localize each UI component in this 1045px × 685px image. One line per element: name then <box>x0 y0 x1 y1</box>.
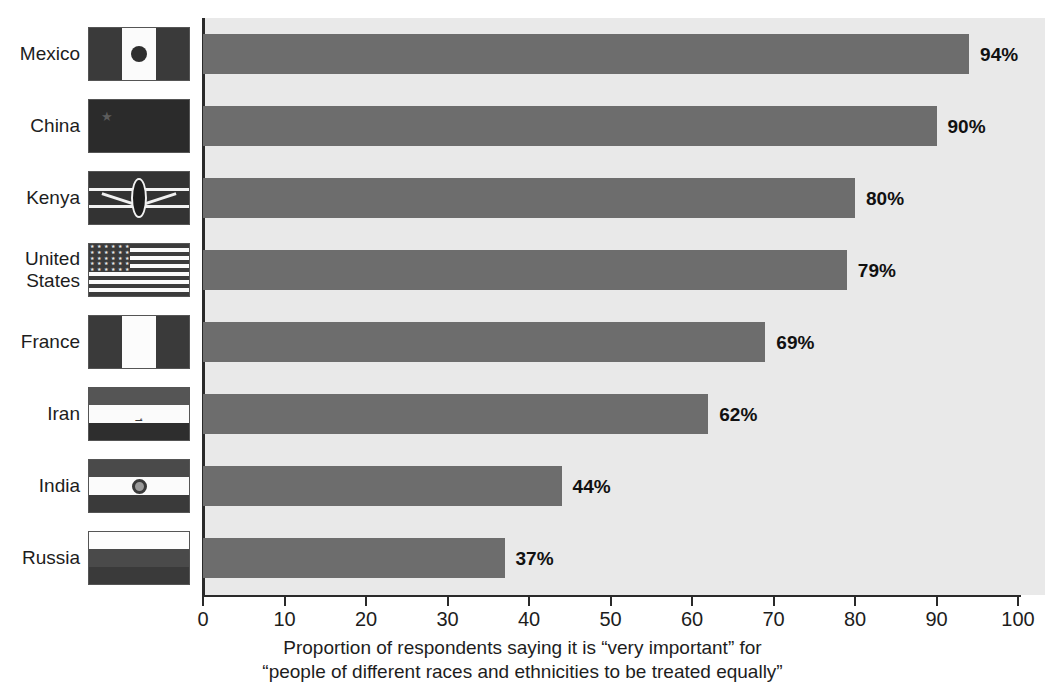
chart-row: UnitedStates★★★★★★★★★★★★★★★★★★★★★★★★★★★★… <box>0 234 1045 306</box>
country-label-line: Kenya <box>0 187 80 209</box>
china-star-icon: ★ <box>101 110 113 123</box>
country-label: Iran <box>0 403 80 425</box>
x-axis-caption: Proportion of respondents saying it is “… <box>0 636 1045 684</box>
x-axis-tick <box>610 596 612 606</box>
x-axis-tick-label: 10 <box>273 608 295 631</box>
x-axis-tick <box>447 596 449 606</box>
country-label-line: States <box>0 270 80 292</box>
chart-row: China★90% <box>0 90 1045 162</box>
flag-united-states-icon: ★★★★★★★★★★★★★★★★★★★★★★★★★★★★★★ <box>88 243 190 297</box>
x-axis-caption-line-1: Proportion of respondents saying it is “… <box>0 636 1045 660</box>
chart-row: Russia37% <box>0 522 1045 594</box>
bar-value-label: 94% <box>980 45 1018 64</box>
bar <box>203 322 765 362</box>
chart-row: Kenya80% <box>0 162 1045 234</box>
mexico-emblem-icon <box>131 46 147 62</box>
flag-iran-icon: ؀ <box>88 387 190 441</box>
country-label-line: Iran <box>0 403 80 425</box>
chart-row: India44% <box>0 450 1045 522</box>
chart-row: France69% <box>0 306 1045 378</box>
x-axis-tick <box>202 596 204 606</box>
country-label-line: United <box>0 248 80 270</box>
bar-value-label: 44% <box>573 477 611 496</box>
bar-value-label: 80% <box>866 189 904 208</box>
x-axis-tick <box>365 596 367 606</box>
flag-russia-icon <box>88 531 190 585</box>
x-axis-tick <box>1017 596 1019 606</box>
country-label-line: France <box>0 331 80 353</box>
x-axis-tick <box>691 596 693 606</box>
country-label-line: India <box>0 475 80 497</box>
country-label: France <box>0 331 80 353</box>
x-axis-tick <box>773 596 775 606</box>
country-label: Kenya <box>0 187 80 209</box>
flag-india-icon <box>88 459 190 513</box>
flag-mexico-icon <box>88 27 190 81</box>
chart-row: Iran؀62% <box>0 378 1045 450</box>
x-axis-tick-label: 80 <box>844 608 866 631</box>
bar <box>203 106 937 146</box>
country-label: Mexico <box>0 43 80 65</box>
bar <box>203 178 855 218</box>
x-axis-tick <box>854 596 856 606</box>
x-axis-tick-label: 20 <box>355 608 377 631</box>
x-axis-caption-line-2: “people of different races and ethniciti… <box>0 660 1045 684</box>
country-label-line: Russia <box>0 547 80 569</box>
flag-kenya-icon <box>88 171 190 225</box>
flag-china-icon: ★ <box>88 99 190 153</box>
us-canton-icon: ★★★★★★★★★★★★★★★★★★★★★★★★★★★★★★ <box>89 244 130 272</box>
bar-chart: Mexico94%China★90%Kenya80%UnitedStates★★… <box>0 0 1045 685</box>
kenya-shield-icon <box>131 178 147 218</box>
x-axis-tick <box>936 596 938 606</box>
bar-value-label: 62% <box>719 405 757 424</box>
country-label: China <box>0 115 80 137</box>
bar <box>203 34 969 74</box>
x-axis-tick-label: 50 <box>599 608 621 631</box>
country-label: India <box>0 475 80 497</box>
country-label: UnitedStates <box>0 248 80 292</box>
bar-value-label: 90% <box>948 117 986 136</box>
x-axis-tick-label: 60 <box>681 608 703 631</box>
flag-france-icon <box>88 315 190 369</box>
iran-emblem-icon: ؀ <box>135 408 143 421</box>
chart-row: Mexico94% <box>0 18 1045 90</box>
bar-value-label: 37% <box>516 549 554 568</box>
bar-value-label: 79% <box>858 261 896 280</box>
x-axis-tick-label: 40 <box>518 608 540 631</box>
bar <box>203 538 505 578</box>
x-axis-line <box>203 595 1021 597</box>
x-axis-tick-label: 0 <box>197 608 208 631</box>
x-axis-tick-label: 70 <box>762 608 784 631</box>
x-axis-tick-label: 100 <box>1001 608 1034 631</box>
bar <box>203 394 708 434</box>
bar <box>203 466 562 506</box>
india-chakra-icon <box>132 479 147 494</box>
bar-value-label: 69% <box>776 333 814 352</box>
x-axis-tick <box>284 596 286 606</box>
bar <box>203 250 847 290</box>
x-axis-tick <box>528 596 530 606</box>
x-axis-tick-label: 90 <box>925 608 947 631</box>
country-label: Russia <box>0 547 80 569</box>
country-label-line: China <box>0 115 80 137</box>
country-label-line: Mexico <box>0 43 80 65</box>
x-axis-tick-label: 30 <box>436 608 458 631</box>
